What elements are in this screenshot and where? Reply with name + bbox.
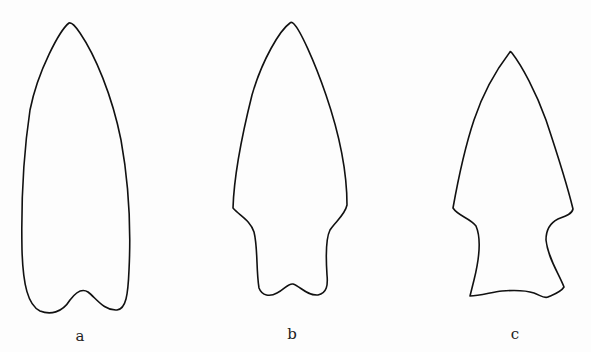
point-outline-b xyxy=(233,22,347,295)
point-outline-c xyxy=(453,52,573,298)
label-c: c xyxy=(511,325,519,343)
point-outline-a xyxy=(22,23,130,313)
figure-canvas xyxy=(0,0,591,352)
label-a: a xyxy=(76,327,85,345)
label-b: b xyxy=(287,325,297,343)
